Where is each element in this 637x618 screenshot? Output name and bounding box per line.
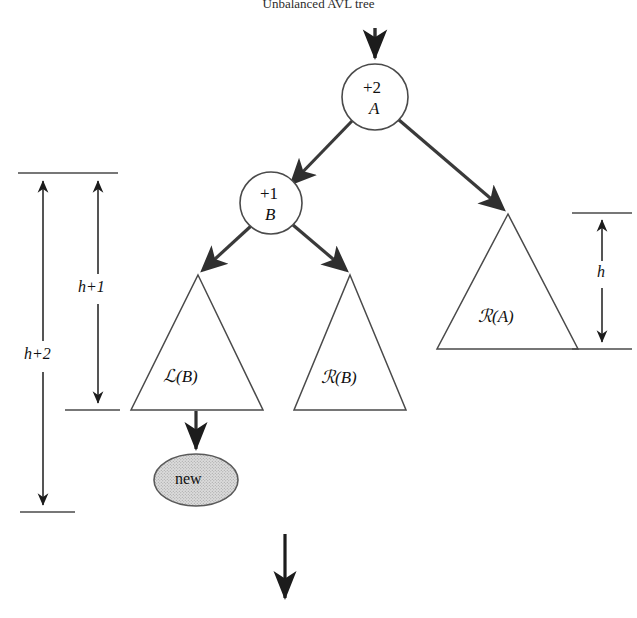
script-r-icon-a: ℛ: [478, 305, 492, 326]
dimension-label-h: h: [597, 263, 605, 281]
edge-a-to-b: [292, 121, 352, 183]
subtree-label-LB-arg: (B): [176, 367, 198, 386]
edge-b-to-lb: [203, 226, 251, 270]
dimension-h-plus-2: [18, 173, 118, 512]
node-a-balance-factor: +2: [363, 78, 381, 98]
subtree-triangle-RA: [437, 214, 578, 349]
node-a-label: A: [369, 99, 379, 119]
script-r-icon-b: ℛ: [321, 366, 335, 387]
subtree-label-RB: ℛ(B): [321, 366, 357, 388]
dimension-label-h-plus-1: h+1: [78, 278, 105, 296]
subtree-triangle-RB: [294, 275, 406, 410]
node-b-label: B: [265, 205, 275, 225]
subtree-label-LB: ℒ(B): [163, 365, 198, 387]
diagram-svg: [0, 0, 637, 618]
new-node-label: new: [175, 470, 202, 488]
dimension-h: [572, 213, 632, 349]
script-l-icon: ℒ: [163, 365, 176, 386]
edge-a-to-ra: [399, 120, 503, 209]
subtree-label-RA-arg: (A): [492, 307, 514, 326]
figure-canvas: Unbalanced AVL tree: [0, 0, 637, 618]
node-b-balance-factor: +1: [260, 184, 278, 204]
subtree-label-RB-arg: (B): [335, 368, 357, 387]
edge-b-to-rb: [293, 225, 346, 270]
subtree-triangle-LB: [131, 275, 263, 410]
subtree-label-RA: ℛ(A): [478, 305, 514, 327]
dimension-label-h-plus-2: h+2: [24, 345, 51, 363]
